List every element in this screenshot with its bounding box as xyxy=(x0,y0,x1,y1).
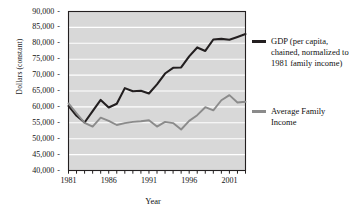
y-axis-tick-label: 80,000- xyxy=(14,39,60,47)
legend-swatch-average-family-income xyxy=(252,110,266,113)
y-axis-tick-label: 65,000- xyxy=(14,87,60,95)
x-axis-tick-label: 1981 xyxy=(54,176,84,185)
x-axis-tick-label: 1996 xyxy=(174,176,204,185)
y-axis-tick-label: 45,000- xyxy=(14,151,60,159)
x-axis-title: Year xyxy=(113,196,193,206)
legend-swatch-gdp xyxy=(252,40,266,43)
legend-label-gdp: GDP (per capita, chained, normalized to … xyxy=(271,36,349,70)
legend-item-average-family-income: Average Family Income xyxy=(252,106,349,128)
legend-item-gdp: GDP (per capita, chained, normalized to … xyxy=(252,36,349,70)
x-axis-tick-label: 1991 xyxy=(134,176,164,185)
y-axis-tick-label: 70,000- xyxy=(14,71,60,79)
y-axis-tick-label: 50,000- xyxy=(14,135,60,143)
x-axis-tick-label: 1986 xyxy=(94,176,124,185)
y-axis-tick-label: 60,000- xyxy=(14,103,60,111)
y-axis-tick-label: 90,000- xyxy=(14,8,60,16)
y-axis-tick-label: 55,000- xyxy=(14,119,60,127)
legend-label-average-family-income: Average Family Income xyxy=(271,106,349,128)
y-axis-tick-label: 85,000- xyxy=(14,23,60,31)
chart-container: Dollars (constant) 40,000-45,000-50,000-… xyxy=(0,0,351,215)
x-axis-tick-label: 2001 xyxy=(214,176,244,185)
y-axis-tick-label: 40,000- xyxy=(14,167,60,175)
y-axis-tick-label: 75,000- xyxy=(14,55,60,63)
